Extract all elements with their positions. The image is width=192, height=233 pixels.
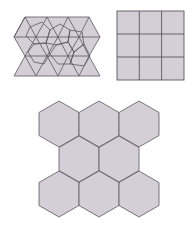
hexagon-tiling bbox=[39, 101, 159, 217]
tilings-diagram bbox=[0, 0, 192, 233]
square-tiling bbox=[117, 11, 184, 80]
